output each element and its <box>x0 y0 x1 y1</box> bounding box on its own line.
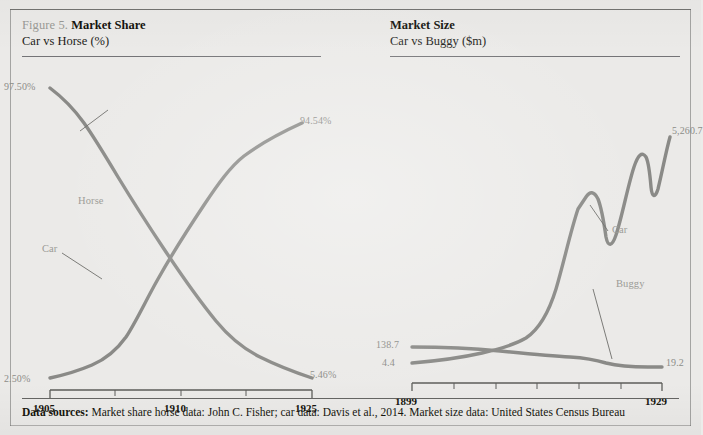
series-line-car-size <box>412 137 670 363</box>
right-tick-label-1929: 1929 <box>645 395 667 407</box>
data-sources-text: Market share horse data: John C. Fisher;… <box>89 406 626 418</box>
value-buggy-start: 138.7 <box>376 339 399 350</box>
right-plot-area: Car Buggy 138.7 4.4 19.2 5,260.7 1899 19… <box>390 57 680 387</box>
value-horse-start: 97.50% <box>4 81 35 92</box>
car-size-leader-line <box>590 205 608 231</box>
right-panel-title-text: Market Size <box>390 18 455 32</box>
right-chart-svg <box>390 57 680 387</box>
annotation-horse: Horse <box>78 195 104 206</box>
series-line-car <box>50 123 302 378</box>
panel-market-size: Market Size Car vs Buggy ($m) <box>390 18 680 393</box>
series-line-buggy <box>412 347 662 367</box>
left-plot-area: Horse Car 97.50% 94.54% 2.50% 5.46% 1905… <box>22 57 342 387</box>
frame-right-rule <box>690 9 691 426</box>
left-panel-title: Figure 5. Market Share <box>22 18 342 33</box>
annotation-car: Car <box>42 243 57 254</box>
annotation-buggy: Buggy <box>616 278 645 289</box>
frame-top-rule <box>10 9 691 10</box>
value-car-size-end: 5,260.7 <box>672 125 703 136</box>
footer-rule <box>22 398 679 399</box>
panel-market-share: Figure 5. Market Share Car vs Horse (%) <box>22 18 342 393</box>
right-panel-title: Market Size <box>390 18 680 33</box>
left-panel-subtitle: Car vs Horse (%) <box>22 33 342 49</box>
value-car-end: 94.54% <box>300 115 331 126</box>
value-car-size-start: 4.4 <box>382 357 395 368</box>
value-horse-end: 5.46% <box>310 369 336 380</box>
data-sources-footer: Data sources: Market share horse data: J… <box>22 406 625 418</box>
value-car-start: 2.50% <box>4 373 30 384</box>
frame-bottom-rule <box>10 425 691 426</box>
annotation-car-size: Car <box>612 224 627 235</box>
right-panel-subtitle: Car vs Buggy ($m) <box>390 33 680 49</box>
series-line-horse <box>50 88 312 378</box>
data-sources-label: Data sources: <box>22 406 89 418</box>
left-chart-svg <box>22 57 342 387</box>
figure-number: Figure 5. <box>22 18 68 32</box>
value-buggy-end: 19.2 <box>666 357 684 368</box>
car-leader-line <box>62 253 102 279</box>
left-panel-title-text: Market Share <box>71 18 145 32</box>
frame-left-rule <box>10 9 11 426</box>
buggy-leader-line <box>593 289 612 359</box>
